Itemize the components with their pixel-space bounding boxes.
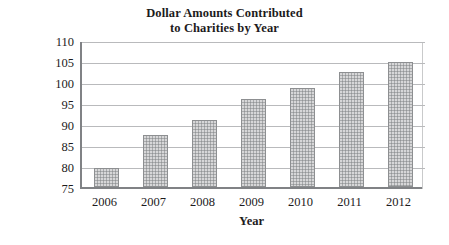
bar-2007 [143, 135, 168, 187]
x-axis-tick-label-2012: 2012 [373, 195, 425, 209]
y-axis-tick-label: 100 [33, 78, 74, 90]
x-axis-tick-label-2008: 2008 [177, 195, 229, 209]
gridline [82, 42, 425, 43]
y-axis-tick-label: 75 [33, 183, 74, 195]
y-axis-tick-label: 90 [33, 120, 74, 132]
chart-title-line-1: Dollar Amounts Contributed [0, 6, 449, 21]
x-axis-title: Year [80, 214, 423, 228]
y-axis-tick-label: 95 [33, 99, 74, 111]
y-axis-tick-label: 80 [33, 162, 74, 174]
y-axis-tick-label: 105 [33, 57, 74, 69]
x-axis-tick-label-2010: 2010 [275, 195, 327, 209]
bar-2012 [388, 62, 413, 187]
plot-right-border [422, 42, 423, 189]
x-axis-tick-label-2006: 2006 [79, 195, 131, 209]
y-axis-tick-label: 110 [33, 36, 74, 48]
x-axis-tick-label-2011: 2011 [324, 195, 376, 209]
x-axis-tick-label-2009: 2009 [226, 195, 278, 209]
x-axis-tick-labels: 2006200720082009201020112012 [0, 195, 449, 211]
gridline [82, 84, 425, 85]
chart-title-line-2: to Charities by Year [0, 21, 449, 36]
bar-2008 [192, 120, 217, 187]
gridline [82, 63, 425, 64]
bar-2011 [339, 72, 364, 187]
bar-2006 [94, 168, 119, 187]
bar-chart-figure: Dollar Amounts Contributed to Charities … [0, 0, 449, 245]
chart-title: Dollar Amounts Contributed to Charities … [0, 6, 449, 36]
plot-area [80, 42, 423, 189]
y-axis-tick-label: 85 [33, 141, 74, 153]
bar-2010 [290, 88, 315, 187]
x-axis-tick-label-2007: 2007 [128, 195, 180, 209]
bar-2009 [241, 99, 266, 187]
